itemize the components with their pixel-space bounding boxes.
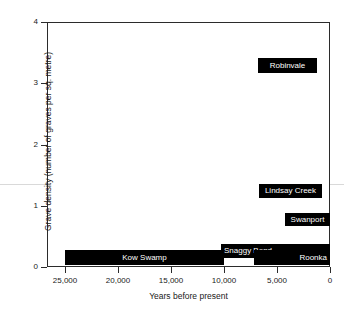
x-tick-10000 — [224, 267, 225, 273]
y-tick-label-2: 2 — [16, 141, 38, 149]
x-tick-label-15000: 15,000 — [148, 276, 194, 285]
x-tick-label-25000: 25,000 — [42, 276, 88, 285]
x-tick-label-20000: 20,000 — [95, 276, 141, 285]
x-tick-label-0: 0 — [307, 276, 344, 285]
x-tick-15000 — [171, 267, 172, 273]
chart-figure: 01234 25,00020,00015,00010,0005,0000 Kow… — [0, 0, 344, 320]
y-tick-label-1: 1 — [16, 202, 38, 210]
x-axis-title: Years before present — [47, 292, 330, 301]
bar-swanport[interactable]: Swanport — [285, 213, 330, 226]
bar-roonka[interactable]: Roonka — [254, 250, 330, 265]
x-tick-label-5000: 5,000 — [254, 276, 300, 285]
x-tick-5000 — [277, 267, 278, 273]
x-tick-0 — [330, 267, 331, 273]
bar-label-swanport: Swanport — [288, 216, 328, 224]
x-tick-20000 — [118, 267, 119, 273]
bar-kow-swamp[interactable]: Kow Swamp — [65, 250, 224, 265]
y-tick-label-0: 0 — [16, 263, 38, 271]
bar-lindsay-creek[interactable]: Lindsay Creek — [259, 184, 322, 198]
bar-label-lindsay-creek: Lindsay Creek — [262, 187, 319, 195]
y-tick-label-3: 3 — [16, 79, 38, 87]
bar-label-robinvale: Robinvale — [267, 62, 309, 70]
bar-robinvale[interactable]: Robinvale — [258, 58, 317, 73]
x-tick-label-10000: 10,000 — [201, 276, 247, 285]
bar-label-kow-swamp: Kow Swamp — [119, 254, 169, 262]
x-tick-25000 — [65, 267, 66, 273]
y-axis-title: Grave density (number of graves per sq. … — [44, 17, 53, 267]
y-tick-label-4: 4 — [16, 18, 38, 26]
bar-label-roonka: Roonka — [296, 254, 330, 262]
y-tick-0 — [41, 267, 47, 268]
